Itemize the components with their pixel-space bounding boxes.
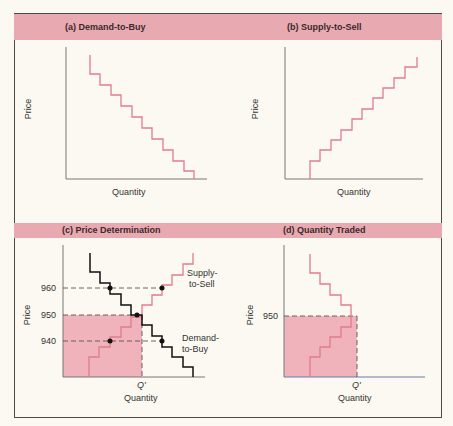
demand-point-940 xyxy=(160,339,165,344)
panel-c-xlabel: Quantity xyxy=(124,393,158,403)
tick-960: 960 xyxy=(41,283,56,293)
panel-a-xlabel: Quantity xyxy=(112,187,146,197)
shaded-revenue-area xyxy=(63,315,142,377)
charts-canvas xyxy=(0,0,453,426)
equilibrium-point xyxy=(135,313,140,318)
supply-point-960 xyxy=(160,286,165,291)
panel-c-chart xyxy=(63,245,205,377)
tick-950: 950 xyxy=(263,311,278,321)
panel-b-chart xyxy=(285,47,423,179)
supply-curve xyxy=(310,57,417,179)
tick-940: 940 xyxy=(41,336,56,346)
panel-d-ylabel: Price xyxy=(245,305,255,326)
supply-point-940 xyxy=(108,339,113,344)
qprime-label: Q' xyxy=(137,380,146,390)
qprime-label: Q' xyxy=(352,380,361,390)
panel-d-xlabel: Quantity xyxy=(338,393,372,403)
panel-c-ylabel: Price xyxy=(22,305,32,326)
demand-curve xyxy=(90,55,194,179)
demand-label: Demand- to-Buy xyxy=(182,333,219,355)
panel-b-xlabel: Quantity xyxy=(337,187,371,197)
demand-curve xyxy=(310,254,351,316)
supply-label: Supply- to-Sell xyxy=(187,268,218,290)
tick-950: 950 xyxy=(41,310,56,320)
panel-a-chart xyxy=(66,47,207,179)
demand-point-960 xyxy=(108,286,113,291)
panel-a-ylabel: Price xyxy=(23,99,33,120)
panel-b-ylabel: Price xyxy=(250,99,260,120)
panel-d-chart xyxy=(284,245,425,377)
